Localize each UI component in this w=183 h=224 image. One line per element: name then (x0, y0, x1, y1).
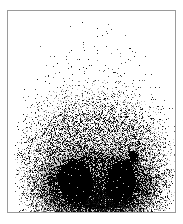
scintigraphy-image-root: scintigraphy posterior (0, 0, 183, 224)
scintigraphy-scan-canvas (8, 11, 175, 212)
modality-label: scintigraphy (0, 0, 1, 1)
scan-image-frame (7, 10, 176, 213)
view-label: posterior (0, 0, 1, 1)
